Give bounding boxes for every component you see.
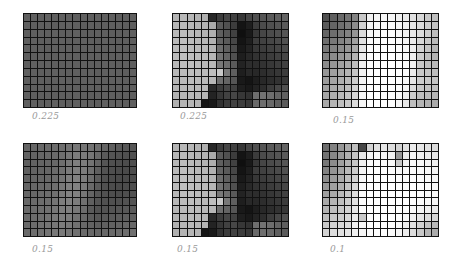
heatmap-cell: [224, 100, 230, 107]
heatmap-cell: [330, 214, 336, 221]
heatmap-cell: [396, 191, 402, 198]
heatmap-cell: [282, 152, 288, 159]
heatmap-cell: [52, 61, 58, 68]
heatmap-cell: [388, 77, 394, 84]
heatmap-cell: [188, 69, 194, 76]
heatmap-cell: [24, 85, 30, 92]
heatmap-cell: [188, 92, 194, 99]
heatmap-cell: [374, 92, 380, 99]
heatmap-cell: [381, 77, 387, 84]
heatmap-cell: [381, 183, 387, 190]
heatmap-cell: [130, 22, 136, 29]
heatmap-cell: [345, 144, 351, 151]
heatmap-cell: [52, 100, 58, 107]
heatmap-cell: [330, 61, 336, 68]
heatmap-cell: [352, 152, 358, 159]
heatmap-cell: [224, 85, 230, 92]
heatmap-cell: [73, 30, 79, 37]
heatmap-cell: [338, 53, 344, 60]
heatmap-cell: [246, 175, 252, 182]
heatmap-grid: [23, 143, 137, 237]
heatmap-cell: [330, 85, 336, 92]
heatmap-cell: [381, 214, 387, 221]
heatmap-cell: [81, 61, 87, 68]
heatmap-cell: [352, 206, 358, 213]
heatmap-cell: [345, 160, 351, 167]
heatmap-cell: [246, 183, 252, 190]
heatmap-cell: [188, 214, 194, 221]
heatmap-cell: [388, 152, 394, 159]
heatmap-cell: [24, 214, 30, 221]
heatmap-cell: [381, 160, 387, 167]
heatmap-cell: [425, 100, 431, 107]
heatmap-cell: [109, 77, 115, 84]
heatmap-cell: [425, 14, 431, 21]
heatmap-cell: [45, 167, 51, 174]
heatmap-cell: [52, 144, 58, 151]
heatmap-cell: [188, 53, 194, 60]
heatmap-cell: [195, 175, 201, 182]
heatmap-cell: [130, 14, 136, 21]
heatmap-cell: [59, 69, 65, 76]
heatmap-cell: [403, 198, 409, 205]
heatmap-cell: [246, 61, 252, 68]
heatmap-cell: [66, 175, 72, 182]
heatmap-cell: [66, 191, 72, 198]
heatmap-cell: [31, 45, 37, 52]
heatmap-cell: [102, 191, 108, 198]
heatmap-cell: [59, 53, 65, 60]
heatmap-cell: [81, 167, 87, 174]
heatmap-cell: [345, 92, 351, 99]
heatmap-grid: [23, 13, 137, 108]
panel-value-label: 0.1: [330, 244, 345, 254]
heatmap-cell: [102, 61, 108, 68]
heatmap-cell: [417, 77, 423, 84]
heatmap-cell: [231, 175, 237, 182]
heatmap-cell: [330, 229, 336, 236]
heatmap-cell: [195, 53, 201, 60]
heatmap-cell: [66, 100, 72, 107]
heatmap-cell: [31, 198, 37, 205]
heatmap-cell: [123, 22, 129, 29]
heatmap-cell: [109, 45, 115, 52]
heatmap-cell: [410, 198, 416, 205]
heatmap-cell: [59, 222, 65, 229]
heatmap-cell: [410, 167, 416, 174]
heatmap-cell: [109, 92, 115, 99]
heatmap-cell: [195, 77, 201, 84]
heatmap-cell: [367, 206, 373, 213]
heatmap-cell: [359, 160, 365, 167]
heatmap-cell: [275, 100, 281, 107]
heatmap-cell: [217, 77, 223, 84]
heatmap-cell: [88, 183, 94, 190]
heatmap-cell: [31, 22, 37, 29]
heatmap-cell: [24, 198, 30, 205]
heatmap-cell: [38, 160, 44, 167]
heatmap-cell: [246, 144, 252, 151]
heatmap-cell: [359, 92, 365, 99]
heatmap-cell: [282, 85, 288, 92]
heatmap-cell: [367, 85, 373, 92]
heatmap-cell: [73, 229, 79, 236]
heatmap-cell: [330, 144, 336, 151]
heatmap-cell: [45, 222, 51, 229]
heatmap-cell: [188, 175, 194, 182]
heatmap-cell: [410, 214, 416, 221]
heatmap-cell: [388, 69, 394, 76]
heatmap-cell: [374, 85, 380, 92]
heatmap-cell: [396, 214, 402, 221]
heatmap-cell: [95, 144, 101, 151]
heatmap-cell: [432, 45, 438, 52]
heatmap-cell: [359, 183, 365, 190]
heatmap-cell: [52, 53, 58, 60]
heatmap-cell: [24, 77, 30, 84]
heatmap-cell: [338, 175, 344, 182]
heatmap-cell: [59, 183, 65, 190]
heatmap-cell: [359, 100, 365, 107]
heatmap-cell: [66, 183, 72, 190]
heatmap-cell: [173, 69, 179, 76]
heatmap-cell: [352, 222, 358, 229]
heatmap-cell: [180, 206, 186, 213]
heatmap-cell: [282, 214, 288, 221]
heatmap-cell: [410, 229, 416, 236]
